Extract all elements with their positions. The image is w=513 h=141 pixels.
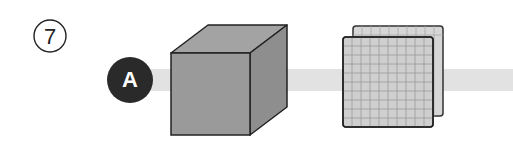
solid-cube — [171, 25, 287, 135]
circled-number-icon: 7 — [32, 18, 68, 54]
problem-number: 7 — [32, 18, 68, 54]
diagram-stage: 7 A — [0, 0, 513, 141]
diagram-canvas — [0, 0, 513, 141]
marker-a: A — [107, 57, 153, 103]
grid-plates — [343, 26, 443, 127]
cube-front-face — [171, 53, 250, 135]
svg-text:7: 7 — [44, 24, 56, 49]
marker-label: A — [122, 67, 138, 93]
